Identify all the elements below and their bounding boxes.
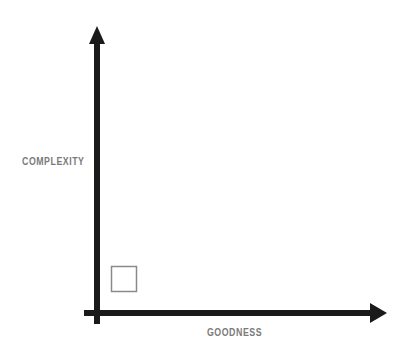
y-axis-line [94, 40, 100, 324]
marker-square [112, 267, 137, 292]
axes-diagram [0, 0, 411, 353]
x-axis-arrowhead-icon [370, 303, 387, 323]
y-axis-label: COMPLEXITY [22, 157, 84, 167]
x-axis-label: GOODNESS [207, 328, 262, 338]
x-axis-line [84, 310, 374, 316]
y-axis-arrowhead-icon [89, 26, 105, 44]
